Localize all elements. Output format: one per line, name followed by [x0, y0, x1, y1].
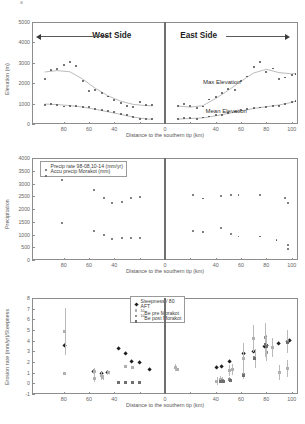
- y-tick-mark: [32, 196, 35, 197]
- data-point: [192, 194, 194, 196]
- x-tick-label: 60: [231, 396, 251, 402]
- fit-curve: [45, 71, 153, 106]
- data-point: [139, 118, 141, 120]
- data-point: [220, 227, 222, 229]
- data-point: [63, 64, 65, 66]
- x-tick-mark: [89, 122, 90, 125]
- data-point: [93, 370, 96, 373]
- legend-erosion: Steepness / 80 AFT 10Be pre Morakot 10Be…: [130, 296, 185, 323]
- x-tick-label: 60: [79, 262, 99, 268]
- data-point: [291, 101, 293, 103]
- x-tick-label: 100: [282, 396, 302, 402]
- y-tick-label: 2: [8, 359, 30, 365]
- data-point: [107, 371, 110, 374]
- x-tick-mark: [64, 392, 65, 395]
- data-point: [222, 380, 225, 383]
- center-divider-panel1: [164, 22, 166, 124]
- y-axis-label-elevation: Elevation (m): [4, 63, 10, 95]
- y-tick-label: 4000: [8, 39, 30, 45]
- y-tick-label: 5: [8, 327, 30, 333]
- x-tick-label: 100: [282, 126, 302, 132]
- y-tick-mark: [32, 42, 35, 43]
- x-tick-mark: [266, 122, 267, 125]
- x-tick-mark: [292, 258, 293, 261]
- y-tick-mark: [32, 222, 35, 223]
- data-point: [253, 107, 255, 109]
- y-tick-label: 2000: [8, 80, 30, 86]
- data-point: [93, 189, 95, 191]
- data-point: [230, 233, 232, 235]
- y-tick-mark: [32, 341, 35, 342]
- x-tick-mark: [266, 258, 267, 261]
- y-tick-mark: [32, 235, 35, 236]
- x-tick-label: 40: [104, 396, 124, 402]
- legend-precipitation: Precip rate 98-08,10-14 (mm/yr) Accu pre…: [40, 161, 127, 177]
- legend-item-10be-post: 10Be post Morakot: [133, 315, 181, 321]
- y-tick-mark: [32, 63, 35, 64]
- x-tick-mark: [89, 392, 90, 395]
- data-point: [196, 107, 198, 109]
- y-tick-mark: [32, 124, 35, 125]
- x-tick-label: 80: [256, 396, 276, 402]
- y-tick-label: 0: [8, 257, 30, 263]
- data-point: [139, 237, 141, 239]
- y-tick-mark: [32, 158, 35, 159]
- y-tick-label: 3000: [8, 181, 30, 187]
- data-point: [131, 381, 134, 384]
- data-point: [101, 376, 104, 379]
- data-point: [101, 109, 103, 111]
- y-tick-label: 1000: [8, 232, 30, 238]
- arrow-left-west-icon: [41, 36, 109, 37]
- x-tick-mark: [190, 122, 191, 125]
- x-tick-mark: [190, 258, 191, 261]
- data-point: [82, 80, 84, 82]
- data-point: [139, 101, 141, 103]
- panel-precipitation: 0500100015002000250030003500400080604004…: [0, 148, 305, 294]
- data-point: [196, 118, 198, 120]
- data-point: [63, 372, 66, 375]
- data-point: [111, 238, 113, 240]
- y-tick-label: 0: [8, 380, 30, 386]
- y-tick-mark: [32, 247, 35, 248]
- data-point: [259, 61, 261, 63]
- x-tick-mark: [190, 392, 191, 395]
- y-tick-mark: [32, 383, 35, 384]
- x-tick-label: 60: [231, 126, 251, 132]
- data-point: [69, 61, 71, 63]
- data-point: [220, 195, 222, 197]
- data-point: [215, 380, 218, 383]
- x-tick-mark: [64, 258, 65, 261]
- y-tick-mark: [32, 22, 35, 23]
- y-tick-label: 0: [8, 121, 30, 127]
- x-tick-label: 80: [54, 126, 74, 132]
- x-tick-mark: [216, 122, 217, 125]
- data-point: [93, 230, 95, 232]
- y-tick-mark: [32, 104, 35, 105]
- mean-elevation-annotation: Mean Elevation: [206, 108, 247, 114]
- y-axis-label-precipitation: Precipitation: [4, 199, 10, 229]
- data-point: [242, 357, 245, 360]
- y-tick-label: 1000: [8, 101, 30, 107]
- data-point: [139, 196, 141, 198]
- y-tick-mark: [32, 184, 35, 185]
- data-point: [215, 96, 217, 98]
- data-point: [82, 106, 84, 108]
- y-tick-label: 7: [8, 306, 30, 312]
- data-point: [120, 102, 122, 104]
- legend-dot-icon: [43, 163, 49, 181]
- x-tick-mark: [241, 258, 242, 261]
- y-tick-label: -1: [8, 391, 30, 397]
- y-tick-mark: [32, 394, 35, 395]
- fit-curve: [45, 104, 153, 119]
- y-tick-mark: [32, 309, 35, 310]
- y-tick-label: 8: [8, 295, 30, 301]
- data-point: [230, 194, 232, 196]
- y-tick-mark: [32, 319, 35, 320]
- data-point: [176, 368, 179, 371]
- legend-label-10be-post: 10Be post Morakot: [141, 314, 182, 321]
- arrow-right-head-icon: [285, 34, 290, 40]
- center-divider-panel2: [164, 158, 166, 260]
- center-divider-panel3: [164, 298, 166, 394]
- x-tick-mark: [64, 122, 65, 125]
- y-tick-mark: [32, 298, 35, 299]
